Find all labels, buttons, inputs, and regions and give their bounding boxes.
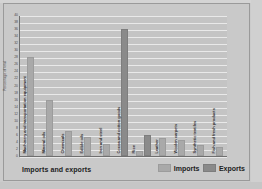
bar-group: Chemicals bbox=[58, 16, 77, 156]
gridline bbox=[20, 157, 227, 158]
category-label: Edible oils bbox=[80, 134, 85, 154]
bar-imports bbox=[27, 57, 34, 156]
category-label: Mineral oils bbox=[42, 132, 47, 154]
category-label: Machinery and transportation equipment bbox=[23, 77, 28, 154]
y-axis-tick-label: 30 bbox=[14, 50, 18, 53]
exports-swatch-icon bbox=[203, 164, 216, 172]
bar-imports bbox=[159, 138, 166, 156]
bar-imports bbox=[178, 140, 185, 156]
y-axis-tick-label: 24 bbox=[14, 71, 18, 74]
y-axis-tick-label: 20 bbox=[14, 85, 18, 88]
category-label: Cocoa and cotton goods bbox=[118, 107, 123, 154]
bar-group: Cocoa and cotton goods bbox=[115, 16, 134, 156]
bar-imports bbox=[216, 147, 223, 156]
y-axis-tick-label: 26 bbox=[14, 64, 18, 67]
y-axis-tick-label: 40 bbox=[14, 14, 18, 17]
y-axis-tick-label: 32 bbox=[14, 42, 18, 45]
legend-item-imports: Imports bbox=[158, 164, 199, 172]
bar-exports bbox=[144, 135, 151, 156]
chart-title: Imports and exports bbox=[22, 166, 91, 173]
bar-series-container: Machinery and transportation equipmentMi… bbox=[20, 16, 227, 156]
y-axis-tick-label: 12 bbox=[14, 113, 18, 116]
bar-imports bbox=[136, 151, 143, 156]
scan-bottom-band bbox=[0, 182, 262, 189]
chart-footer: Imports and exports Imports Exports bbox=[19, 160, 247, 180]
bar-group: Machinery and transportation equipment bbox=[20, 16, 39, 156]
bar-group: Leather bbox=[152, 16, 171, 156]
category-label: Rice bbox=[133, 146, 138, 154]
bar-group: Edible oils bbox=[77, 16, 96, 156]
bar-exports bbox=[121, 29, 128, 156]
bar-imports bbox=[197, 145, 204, 156]
category-label: Woolen carpets bbox=[175, 124, 180, 154]
y-axis-tick-label: 0 bbox=[16, 155, 18, 158]
category-label: Leather bbox=[156, 140, 161, 154]
y-axis-tick-label: 6 bbox=[16, 134, 18, 137]
category-label: Fish and fresh products bbox=[212, 109, 217, 154]
y-axis-tick-label: 22 bbox=[14, 78, 18, 81]
bar-group: Fish and fresh products bbox=[209, 16, 228, 156]
category-label: Iron and steel bbox=[99, 128, 104, 154]
y-axis-tick-label: 14 bbox=[14, 106, 18, 109]
bar-group: Iron and steel bbox=[96, 16, 115, 156]
y-axis-tick-label: 10 bbox=[14, 120, 18, 123]
category-label: Chemicals bbox=[61, 134, 66, 154]
legend-label-imports: Imports bbox=[174, 165, 200, 172]
bar-group: Mineral oils bbox=[39, 16, 58, 156]
imports-swatch-icon bbox=[158, 164, 171, 172]
y-axis-tick-label: 2 bbox=[16, 148, 18, 151]
scan-right-band bbox=[251, 0, 262, 189]
bar-group: Woolen carpets bbox=[171, 16, 190, 156]
y-axis-label: Percentage of total bbox=[3, 61, 7, 91]
y-axis-tick-label: 28 bbox=[14, 57, 18, 60]
legend-item-exports: Exports bbox=[203, 164, 245, 172]
y-axis-tick-label: 34 bbox=[14, 35, 18, 38]
plot-area: 0246810121416182022242628303234363840 Ma… bbox=[19, 16, 227, 157]
bar-group: Synthetic textiles bbox=[190, 16, 209, 156]
bar-group: Rice bbox=[133, 16, 152, 156]
y-axis-tick-label: 36 bbox=[14, 28, 18, 31]
y-axis-tick-label: 38 bbox=[14, 21, 18, 24]
y-axis-tick-label: 4 bbox=[16, 141, 18, 144]
legend-label-exports: Exports bbox=[219, 165, 245, 172]
chart-legend: Imports Exports bbox=[158, 164, 245, 172]
y-axis-tick-label: 16 bbox=[14, 99, 18, 102]
y-axis-tick-label: 18 bbox=[14, 92, 18, 95]
chart-figure: Percentage of total 02468101214161820222… bbox=[0, 0, 262, 189]
y-axis-tick-label: 8 bbox=[16, 127, 18, 130]
category-label: Synthetic textiles bbox=[194, 121, 199, 154]
